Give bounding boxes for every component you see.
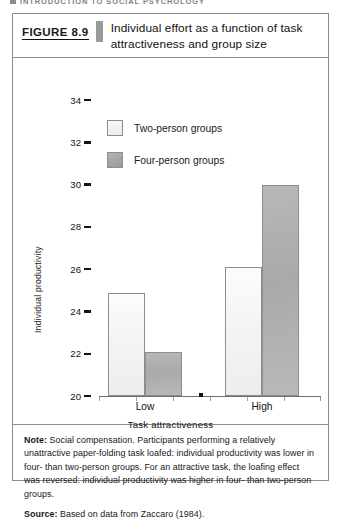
y-axis-tick-24: 24 (57, 306, 91, 318)
bar-low-two-person (108, 293, 145, 397)
source-lead: Source: (24, 509, 57, 519)
caption-divider (96, 21, 103, 42)
bar-high-four-person (262, 185, 299, 396)
x-axis-label-low: Low (110, 401, 180, 412)
y-axis-tick-22: 22 (57, 348, 91, 360)
running-head-text: INTRODUCTION TO SOCIAL PSYCHOLOGY (20, 0, 205, 6)
y-axis-tick-label: 24 (70, 306, 81, 317)
x-axis-title: Task attractiveness (13, 419, 328, 430)
x-axis-label-high: High (227, 401, 297, 412)
y-axis-tick-dash (84, 268, 91, 270)
y-axis-tick-label: 34 (70, 95, 81, 106)
note-paragraph: Note: Social compensation. Participants … (24, 434, 317, 501)
source-text: Based on data from Zaccaro (1984). (57, 509, 204, 519)
bar-low-four-person (145, 352, 182, 396)
figure-number: FIGURE 8.9 (22, 26, 89, 40)
x-axis-line (99, 396, 321, 397)
y-axis-tick-label: 28 (70, 221, 81, 232)
y-axis-tick-label: 32 (70, 137, 81, 148)
figure-notes: Note: Social compensation. Participants … (13, 424, 328, 521)
y-axis-tick-label: 26 (70, 264, 81, 275)
y-axis-tick-32: 32 (57, 136, 91, 148)
y-axis-tick-dash (84, 395, 91, 397)
source-paragraph: Source: Based on data from Zaccaro (1984… (24, 508, 317, 521)
y-axis-tick-label: 22 (70, 348, 81, 359)
y-axis-tick-label: 30 (70, 179, 81, 190)
bar-high-two-person (225, 267, 262, 396)
square-bullet-icon (10, 0, 16, 4)
y-axis-tick-label: 20 (70, 391, 81, 402)
chart-plot-area: Two-person groups Four-person groups Ind… (13, 58, 328, 408)
bars-container (99, 66, 319, 397)
figure-number-wrap: FIGURE 8.9 (22, 21, 89, 40)
y-axis-tick-dash (84, 141, 91, 143)
y-axis-tick-dash (84, 353, 91, 355)
figure-caption: FIGURE 8.9 Individual effort as a functi… (13, 14, 328, 58)
y-axis-tick-dash (84, 99, 91, 101)
note-text: Social compensation. Participants perfor… (24, 435, 314, 498)
y-axis-tick-20: 20 (57, 390, 91, 402)
figure-box: FIGURE 8.9 Individual effort as a functi… (12, 13, 329, 481)
x-axis-center-marker (199, 393, 203, 397)
y-axis-tick-dash (84, 226, 91, 228)
y-axis-tick-30: 30 (57, 179, 91, 191)
y-axis-tick-dash (84, 310, 91, 312)
note-lead: Note: (24, 435, 47, 445)
y-axis-tick-34: 34 (57, 94, 91, 106)
y-axis-tick-dash (84, 183, 91, 185)
y-axis-tick-28: 28 (57, 221, 91, 233)
running-head: INTRODUCTION TO SOCIAL PSYCHOLOGY (10, 0, 205, 6)
page-title: Individual effort as a function of task … (111, 21, 319, 52)
y-axis-tick-26: 26 (57, 263, 91, 275)
